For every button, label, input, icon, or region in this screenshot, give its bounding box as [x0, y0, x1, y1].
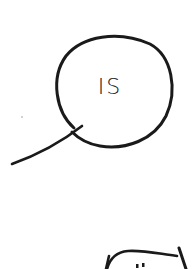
hand-drawn-sketch: [0, 0, 194, 269]
bubble-text: IS: [90, 76, 130, 98]
partial-shape-right-stroke-icon: [179, 248, 186, 269]
speck-dot: [21, 116, 23, 118]
mark-dot-2: [142, 263, 145, 267]
mark-dot-1: [136, 264, 139, 268]
